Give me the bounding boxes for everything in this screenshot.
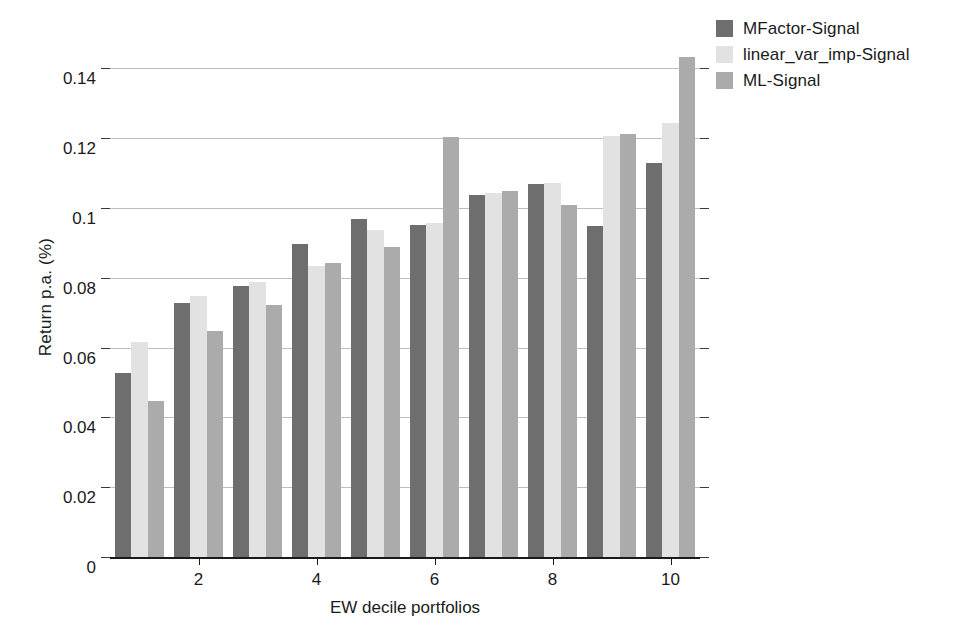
y-tick-mark-right <box>700 138 709 139</box>
legend-item[interactable]: MFactor-Signal <box>716 18 910 39</box>
bar <box>233 286 250 558</box>
bar <box>115 373 132 558</box>
y-tick-mark-right <box>700 208 709 209</box>
bar <box>384 247 401 558</box>
y-tick-mark <box>101 417 110 418</box>
bar <box>502 191 519 558</box>
bar-chart-figure: Return p.a. (%) 00.020.040.060.080.10.12… <box>0 0 968 634</box>
bar-group <box>528 43 578 558</box>
bar <box>292 244 309 558</box>
bar <box>410 225 427 558</box>
bar <box>190 296 207 558</box>
x-tick-label: 4 <box>312 570 321 590</box>
x-tick-label: 6 <box>430 570 439 590</box>
y-tick-mark <box>101 138 110 139</box>
y-tick-mark-right <box>700 348 709 349</box>
x-tick-mark <box>317 558 318 565</box>
y-tick-mark-right <box>700 68 709 69</box>
legend-swatch-icon <box>716 20 733 37</box>
bar <box>469 195 486 558</box>
y-axis-title: Return p.a. (%) <box>36 187 56 407</box>
y-tick-mark <box>101 278 110 279</box>
bar <box>325 263 342 558</box>
bar <box>266 305 283 558</box>
bar <box>174 303 191 558</box>
bar-group <box>646 43 696 558</box>
y-tick-mark-right <box>700 557 709 558</box>
bar <box>544 183 561 558</box>
plot-area: 00.020.040.060.080.10.120.14 246810 <box>110 43 700 558</box>
bar <box>679 57 696 558</box>
legend-swatch-icon <box>716 72 733 89</box>
bar <box>485 193 502 558</box>
bar <box>426 223 443 558</box>
bar <box>587 226 604 558</box>
legend-item-label: ML-Signal <box>743 71 820 91</box>
bar <box>603 136 620 558</box>
bar-group <box>351 43 401 558</box>
bar <box>148 401 165 558</box>
bar-group <box>292 43 342 558</box>
legend-item-label: MFactor-Signal <box>743 19 860 39</box>
y-tick-mark-right <box>700 487 709 488</box>
bar <box>443 137 460 558</box>
bar-group <box>469 43 519 558</box>
bar <box>561 205 578 558</box>
x-tick-mark <box>671 558 672 565</box>
legend-item[interactable]: linear_var_imp-Signal <box>716 44 910 65</box>
x-tick-label: 10 <box>661 570 680 590</box>
x-axis-title: EW decile portfolios <box>110 598 700 618</box>
bar <box>351 219 368 558</box>
bar-series-container <box>110 43 700 558</box>
y-tick-mark <box>101 487 110 488</box>
bar <box>308 266 325 558</box>
y-tick-mark <box>101 208 110 209</box>
bar <box>662 123 679 558</box>
bar <box>620 134 637 558</box>
bar <box>528 184 545 558</box>
bar-group <box>410 43 460 558</box>
x-tick-mark <box>435 558 436 565</box>
bar-group <box>174 43 224 558</box>
bar-group <box>115 43 165 558</box>
y-tick-mark-right <box>700 278 709 279</box>
x-tick-mark <box>553 558 554 565</box>
bar <box>367 230 384 558</box>
legend-item[interactable]: ML-Signal <box>716 70 910 91</box>
x-tick-mark <box>199 558 200 565</box>
bar-group <box>587 43 637 558</box>
y-tick-mark-right <box>700 417 709 418</box>
y-tick-mark <box>101 348 110 349</box>
bar <box>249 282 266 558</box>
x-axis-line <box>110 557 700 559</box>
bar <box>646 163 663 558</box>
y-tick-mark <box>101 68 110 69</box>
bar <box>207 331 224 558</box>
legend-item-label: linear_var_imp-Signal <box>743 45 910 65</box>
bar-group <box>233 43 283 558</box>
x-tick-label: 8 <box>548 570 557 590</box>
x-tick-label: 2 <box>194 570 203 590</box>
y-tick-mark <box>101 557 110 558</box>
chart-legend: MFactor-Signallinear_var_imp-SignalML-Si… <box>716 18 910 91</box>
bar <box>131 342 148 558</box>
legend-swatch-icon <box>716 46 733 63</box>
